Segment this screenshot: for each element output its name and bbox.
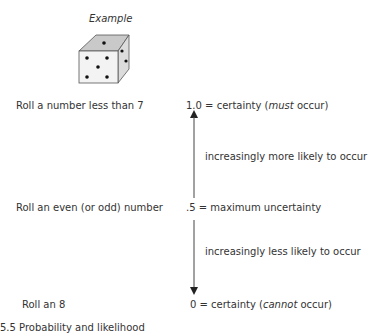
die-icon: [76, 33, 132, 85]
probability-label-half: .5 = maximum uncertainty: [186, 202, 321, 214]
probability-text: = maximum uncertainty: [196, 202, 322, 213]
probability-text: = certainty (: [202, 100, 269, 111]
note-more-likely: increasingly more likely to occur: [205, 151, 367, 163]
probability-text: = certainty (: [196, 299, 263, 310]
arrow-up-head-icon: [190, 110, 198, 118]
event-label-roll-8: Roll an 8: [22, 299, 65, 311]
note-less-likely: increasingly less likely to occur: [205, 246, 361, 258]
probability-text-tail: occur): [297, 299, 332, 310]
figure-caption: 5.5 Probability and likelihood: [0, 322, 145, 334]
probability-label-1: 1.0 = certainty (must occur): [186, 100, 328, 112]
example-label: Example: [89, 13, 132, 25]
probability-text-tail: occur): [294, 100, 329, 111]
event-label-even-odd: Roll an even (or odd) number: [16, 202, 163, 214]
probability-label-0: 0 = certainty (cannot occur): [190, 299, 332, 311]
event-label-less-than-7: Roll a number less than 7: [16, 100, 144, 112]
probability-emphasis: must: [269, 100, 294, 111]
arrow-down-head-icon: [190, 287, 198, 295]
probability-value: .5: [186, 202, 196, 213]
probability-emphasis: cannot: [263, 299, 297, 310]
